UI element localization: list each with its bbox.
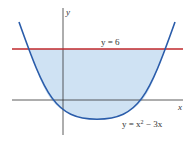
parabola-label: y = x2 − 3x xyxy=(122,119,163,129)
x-axis-label: x xyxy=(177,102,182,112)
shaded-area xyxy=(30,49,164,119)
graph: y x y = 6 y = x2 − 3x xyxy=(0,0,194,143)
line-label: y = 6 xyxy=(101,37,120,47)
y-axis-label: y xyxy=(65,7,70,17)
